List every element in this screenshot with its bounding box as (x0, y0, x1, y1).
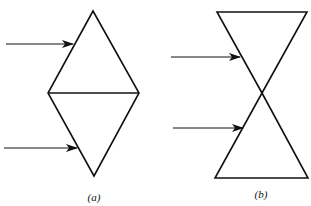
hourglass-bottom-triangle (215, 93, 308, 178)
panel-a: (a) (4, 11, 139, 204)
panel-a-label: (a) (88, 191, 101, 204)
panel-b: (b) (171, 12, 308, 201)
figure-canvas: (a) (b) (0, 0, 311, 206)
hourglass-top-triangle (217, 12, 307, 93)
panel-b-label: (b) (255, 188, 268, 201)
